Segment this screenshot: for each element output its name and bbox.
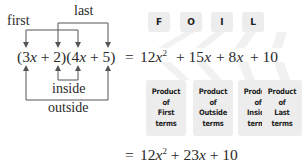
- label-first: first: [7, 14, 30, 28]
- box-line: Outside: [193, 108, 233, 119]
- box-line: terms: [146, 119, 186, 130]
- equals-sign-2: =: [125, 147, 134, 163]
- foil-letter-l: L: [242, 12, 264, 32]
- term-last: + 10: [250, 49, 278, 65]
- box-line: Last: [262, 108, 302, 119]
- foil-letter-f: F: [148, 12, 170, 32]
- term-outside: + 15x: [176, 49, 211, 65]
- box-line: Product: [193, 87, 233, 98]
- box-line: of: [193, 98, 233, 109]
- box-line: Product: [146, 87, 186, 98]
- lhs-part: + 5): [86, 48, 115, 65]
- equals-sign-1: =: [125, 49, 134, 65]
- lhs-var: x: [79, 48, 86, 65]
- box-line: terms: [193, 119, 233, 130]
- foil-letter-i: I: [211, 12, 233, 32]
- label-last: last: [74, 4, 93, 18]
- box-line: of: [146, 98, 186, 109]
- label-inside: inside: [52, 82, 85, 96]
- label-outside: outside: [48, 101, 88, 115]
- lhs-part: + 2)(4: [37, 48, 79, 65]
- box-line: terms: [262, 119, 302, 130]
- lhs-var: x: [30, 48, 37, 65]
- term-inside: + 8x: [216, 49, 243, 65]
- product-box-first: Product of First terms: [146, 80, 186, 136]
- product-box-outside: Product of Outside terms: [193, 80, 233, 136]
- term-first: 12x2: [140, 49, 167, 65]
- lhs-part: (3: [17, 48, 30, 65]
- box-line: Product: [262, 87, 302, 98]
- simplified-result: 12x2 + 23x + 10: [140, 147, 238, 163]
- box-line: First: [146, 108, 186, 119]
- product-box-last: Product of Last terms: [262, 80, 302, 136]
- foil-letter-o: O: [180, 12, 202, 32]
- box-line: of: [262, 98, 302, 109]
- binomial-product: (3x + 2)(4x + 5): [17, 49, 115, 65]
